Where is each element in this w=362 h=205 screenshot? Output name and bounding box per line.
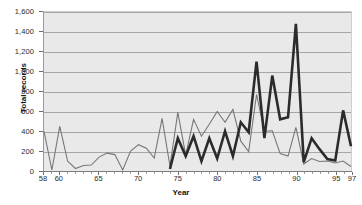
x-tick-label: 75 bbox=[174, 174, 182, 183]
x-tick-mark-minor bbox=[273, 172, 274, 174]
x-tick-mark-minor bbox=[320, 172, 321, 174]
x-tick-mark bbox=[336, 172, 337, 175]
x-tick-mark bbox=[178, 172, 179, 175]
y-tick-label: 1,000 bbox=[15, 67, 34, 76]
x-axis-ticks: 58606570758085909597 bbox=[0, 174, 362, 188]
x-tick-label: 90 bbox=[292, 174, 300, 183]
x-tick-mark-minor bbox=[130, 172, 131, 174]
x-tick-mark-minor bbox=[209, 172, 210, 174]
y-tick-label: 800 bbox=[21, 87, 34, 96]
x-tick-mark-minor bbox=[67, 172, 68, 174]
y-tick-label: 1,200 bbox=[15, 47, 34, 56]
x-tick-mark-minor bbox=[304, 172, 305, 174]
x-axis-title: Year bbox=[0, 188, 362, 197]
x-tick-mark-minor bbox=[106, 172, 107, 174]
x-tick-mark-minor bbox=[122, 172, 123, 174]
x-tick-label: 80 bbox=[213, 174, 221, 183]
x-tick-label: 60 bbox=[55, 174, 63, 183]
x-tick-mark-minor bbox=[75, 172, 76, 174]
y-tick-label: 1,600 bbox=[15, 7, 34, 16]
plot-area bbox=[43, 11, 352, 171]
x-tick-label: 70 bbox=[134, 174, 142, 183]
x-tick-mark-minor bbox=[328, 172, 329, 174]
x-tick-label: 58 bbox=[39, 174, 47, 183]
x-tick-mark-minor bbox=[265, 172, 266, 174]
x-tick-mark bbox=[297, 172, 298, 175]
x-tick-mark bbox=[98, 172, 99, 175]
x-tick-mark-minor bbox=[194, 172, 195, 174]
x-tick-mark bbox=[43, 172, 44, 175]
x-tick-mark-minor bbox=[225, 172, 226, 174]
x-tick-mark-minor bbox=[281, 172, 282, 174]
x-tick-mark-minor bbox=[162, 172, 163, 174]
y-tick-label: 1,400 bbox=[15, 27, 34, 36]
x-tick-mark-minor bbox=[312, 172, 313, 174]
x-tick-label: 95 bbox=[332, 174, 340, 183]
y-tick-label: 400 bbox=[21, 127, 34, 136]
x-tick-mark-minor bbox=[201, 172, 202, 174]
x-tick-mark-minor bbox=[146, 172, 147, 174]
y-tick-label: 200 bbox=[21, 147, 34, 156]
x-tick-label: 65 bbox=[94, 174, 102, 183]
x-tick-mark bbox=[59, 172, 60, 175]
chart-container: Total records 02004006008001,0001,2001,4… bbox=[0, 0, 362, 205]
x-tick-mark-minor bbox=[249, 172, 250, 174]
x-tick-mark-minor bbox=[241, 172, 242, 174]
x-tick-mark-minor bbox=[154, 172, 155, 174]
x-tick-mark bbox=[217, 172, 218, 175]
x-tick-mark-minor bbox=[91, 172, 92, 174]
x-tick-mark-minor bbox=[51, 172, 52, 174]
x-tick-mark-minor bbox=[233, 172, 234, 174]
x-tick-mark-minor bbox=[289, 172, 290, 174]
x-tick-label: 97 bbox=[348, 174, 356, 183]
x-axis-line bbox=[43, 171, 352, 172]
x-tick-mark-minor bbox=[114, 172, 115, 174]
x-tick-label: 85 bbox=[253, 174, 261, 183]
x-tick-mark bbox=[352, 172, 353, 175]
y-tick-label: 600 bbox=[21, 107, 34, 116]
series-layer bbox=[44, 12, 351, 171]
x-tick-mark-minor bbox=[83, 172, 84, 174]
x-tick-mark-minor bbox=[344, 172, 345, 174]
x-tick-mark bbox=[257, 172, 258, 175]
line-series-thick-dark bbox=[170, 24, 351, 169]
x-tick-mark-minor bbox=[170, 172, 171, 174]
x-tick-mark-minor bbox=[186, 172, 187, 174]
x-tick-mark bbox=[138, 172, 139, 175]
